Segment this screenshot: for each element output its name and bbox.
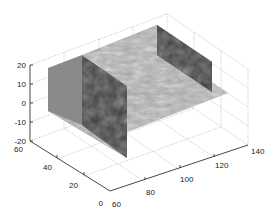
z-tick: 0 bbox=[22, 99, 27, 108]
x-tick: 100 bbox=[180, 175, 194, 184]
y-tick-labels: 60 40 20 0 bbox=[14, 145, 103, 208]
y-tick: 20 bbox=[69, 181, 78, 190]
y-tick: 0 bbox=[99, 199, 104, 208]
y-tick: 60 bbox=[14, 145, 23, 154]
x-tick: 60 bbox=[112, 200, 121, 209]
x-tick: 120 bbox=[215, 161, 229, 170]
volume-slices bbox=[48, 25, 228, 158]
z-tick-labels: 20 10 0 -10 -20 bbox=[14, 61, 26, 146]
x-tick: 80 bbox=[146, 188, 155, 197]
left-face bbox=[48, 55, 82, 125]
y-tick: 40 bbox=[43, 163, 52, 172]
x-tick: 140 bbox=[251, 147, 265, 156]
3d-slice-plot: 20 10 0 -10 -20 60 40 20 0 60 80 100 120… bbox=[0, 0, 271, 220]
z-tick: 20 bbox=[17, 61, 26, 70]
z-tick: -10 bbox=[14, 118, 26, 127]
x-tick-labels: 60 80 100 120 140 bbox=[112, 147, 265, 209]
z-tick: 10 bbox=[17, 80, 26, 89]
